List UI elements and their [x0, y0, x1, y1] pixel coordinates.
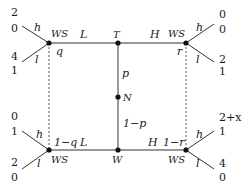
belief-q: q [56, 45, 63, 58]
payoff-tl-l-1: 4 [11, 50, 18, 63]
action-l-bottom-left: l [37, 157, 41, 170]
payoff-bl-h-1: 0 [11, 110, 18, 123]
label-t: T [113, 29, 121, 40]
action-h-top-left: h [34, 21, 41, 34]
payoff-bl-l-2: 0 [11, 171, 18, 184]
action-l-bottom-right: l [196, 157, 200, 170]
action-h-bottom-left: h [36, 128, 43, 141]
payoff-br-h-1: 2+x [219, 111, 242, 124]
label-w: W [112, 154, 123, 165]
payoff-bl-h-2: 1 [11, 125, 18, 138]
payoff-br-l-2: 0 [219, 171, 226, 184]
belief-r: r [177, 45, 183, 58]
payoff-tl-h-2: 0 [11, 22, 18, 35]
action-h-top-right: h [196, 21, 203, 34]
payoff-br-l-1: 4 [219, 157, 226, 170]
node-ws-bottom-left [46, 147, 51, 152]
signaling-game-tree: T N W WS WS WS WS q r 1−q 1−r L H L H p … [0, 0, 250, 191]
belief-1-minus-r: 1−r [163, 136, 185, 149]
action-h-bottom-right: h [196, 128, 203, 141]
action-l-top-left: l [35, 53, 39, 66]
payoff-bl-l-1: 2 [11, 156, 18, 169]
edge-label-bottom-l: L [79, 136, 87, 149]
edge-label-p: p [122, 67, 129, 80]
label-ws-bottom-left: WS [51, 154, 68, 165]
label-ws-top-left: WS [51, 28, 68, 39]
payoff-br-h-2: 1 [219, 125, 226, 138]
edge-label-top-l: L [79, 28, 87, 41]
node-n [115, 94, 120, 99]
branch-bottom-left-l [22, 150, 49, 169]
payoff-tr-h-2: 0 [219, 23, 226, 36]
payoff-tl-h-1: 2 [11, 6, 18, 19]
payoff-tl-l-2: 1 [11, 64, 18, 77]
action-l-top-right: l [196, 53, 200, 66]
label-ws-bottom-right: WS [168, 154, 185, 165]
branch-top-right-l [186, 43, 214, 62]
label-n: N [122, 92, 133, 103]
label-ws-top-right: WS [168, 28, 185, 39]
branch-bottom-right-l [186, 150, 214, 169]
edge-label-1-minus-p: 1−p [123, 117, 146, 130]
node-ws-top-left [46, 40, 51, 45]
node-t [115, 40, 120, 45]
edge-label-top-h: H [149, 28, 160, 41]
node-w [115, 147, 120, 152]
payoff-tr-h-1: 0 [219, 8, 226, 21]
node-ws-top-right [183, 40, 188, 45]
payoff-tr-l-2: 1 [219, 65, 226, 78]
belief-1-minus-q: 1−q [54, 136, 77, 149]
edge-label-bottom-h: H [147, 136, 158, 149]
